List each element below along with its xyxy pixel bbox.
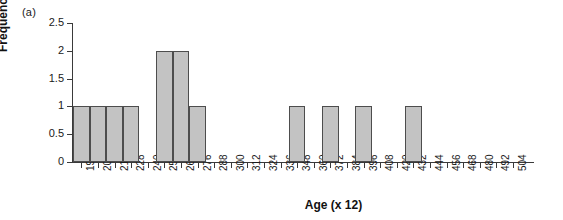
y-tick-label: 2.5 xyxy=(0,16,64,28)
x-tick xyxy=(281,163,282,168)
bar xyxy=(106,106,123,162)
y-tick-label: 1.5 xyxy=(0,72,64,84)
x-tick xyxy=(181,163,182,168)
x-tick xyxy=(496,163,497,168)
histogram-figure: (a) Frequency 00.511.522.5 1922042162282… xyxy=(0,0,563,220)
bar xyxy=(405,106,422,162)
bar xyxy=(156,51,173,162)
x-axis-title: Age (x 12) xyxy=(305,198,362,212)
x-tick xyxy=(380,163,381,168)
x-tick xyxy=(314,163,315,168)
bar xyxy=(90,106,107,162)
bar xyxy=(123,106,140,162)
x-tick xyxy=(430,163,431,168)
x-tick xyxy=(413,163,414,168)
plot-area xyxy=(73,23,534,162)
x-tick xyxy=(297,163,298,168)
x-tick xyxy=(214,163,215,168)
y-tick-label: 0.5 xyxy=(0,127,64,139)
x-tick xyxy=(231,163,232,168)
y-tick-label: 2 xyxy=(0,44,64,56)
x-tick xyxy=(148,163,149,168)
x-tick xyxy=(98,163,99,168)
x-tick xyxy=(198,163,199,168)
x-tick xyxy=(330,163,331,168)
x-tick xyxy=(447,163,448,168)
x-tick xyxy=(131,163,132,168)
bar xyxy=(189,106,206,162)
x-tick xyxy=(264,163,265,168)
x-tick xyxy=(364,163,365,168)
bar xyxy=(173,51,190,162)
x-tick xyxy=(247,163,248,168)
bar xyxy=(73,106,90,162)
x-tick xyxy=(513,163,514,168)
x-tick xyxy=(397,163,398,168)
x-tick xyxy=(480,163,481,168)
bar xyxy=(355,106,372,162)
x-tick xyxy=(164,163,165,168)
x-axis-title-wrap: Age (x 12) xyxy=(0,198,563,212)
x-tick xyxy=(81,163,82,168)
x-tick xyxy=(463,163,464,168)
x-tick xyxy=(115,163,116,168)
x-tick xyxy=(347,163,348,168)
y-tick-label: 1 xyxy=(0,99,64,111)
bar xyxy=(322,106,339,162)
y-tick-label: 0 xyxy=(0,155,64,167)
y-tick xyxy=(67,162,73,163)
bar xyxy=(289,106,306,162)
